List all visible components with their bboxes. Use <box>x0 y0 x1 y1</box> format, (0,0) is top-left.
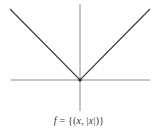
caption-mid: , | <box>81 115 89 126</box>
caption-end: |)} <box>93 115 104 126</box>
function-caption: f = {(x, |x|)} <box>0 115 158 126</box>
vertex-point <box>78 78 81 81</box>
caption-eq: = {( <box>57 115 77 126</box>
